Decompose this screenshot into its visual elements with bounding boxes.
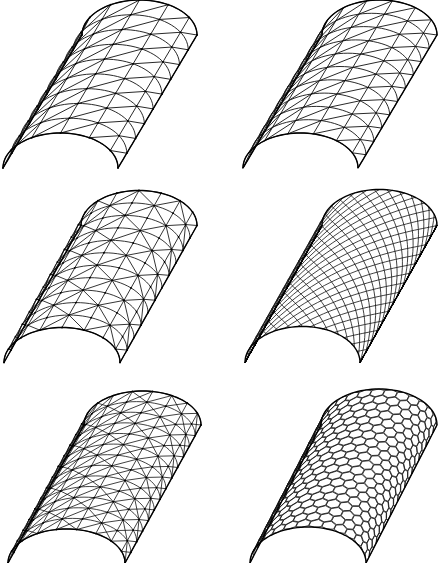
- vault-panel-4: [245, 190, 437, 363]
- vault-panel-3: [3, 190, 198, 364]
- vault-panel-2: [243, 0, 437, 168]
- vault-panel-6: [250, 389, 437, 563]
- vault-grid-figure: [0, 0, 443, 563]
- vault-panel-5: [7, 391, 202, 563]
- vault-panel-1: [2, 0, 198, 169]
